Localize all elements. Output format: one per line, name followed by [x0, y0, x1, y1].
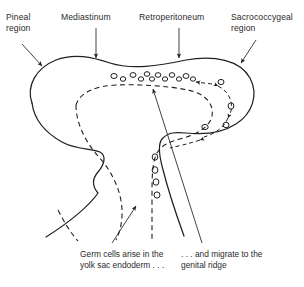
label-leader-lines — [22, 28, 256, 66]
germ-cell-group-right — [202, 79, 234, 129]
label-mediastinum: Mediastinum — [61, 12, 147, 23]
label-sacrococcygeal-region: Sacrococcygeal region — [231, 12, 301, 33]
inner-dashed-contour — [58, 85, 212, 241]
embryo-body-outline — [30, 56, 254, 237]
leader-genital-ridge — [153, 89, 202, 243]
germ-cell-column-vertical — [152, 154, 160, 198]
leader-germ-cells-origin — [112, 206, 136, 243]
embryo-diagram-svg — [0, 0, 304, 287]
migration-path-right-loop — [170, 82, 232, 148]
germ-cell-migration-figure: Pineal region Mediastinum Retroperitoneu… — [0, 0, 304, 287]
germ-cell-row-horizontal — [111, 72, 196, 82]
leader-pineal — [22, 44, 42, 66]
label-retroperitoneum: Retroperitoneum — [139, 12, 235, 23]
label-pineal-region: Pineal region — [6, 12, 54, 33]
leader-sacrococcygeal — [241, 40, 256, 63]
caption-germ-cell-migration: . . . and migrate to the genital ridge — [181, 249, 291, 271]
caption-leader-lines — [112, 89, 202, 243]
caption-germ-cell-origin: Germ cells arise in the yolk sac endoder… — [80, 249, 188, 271]
